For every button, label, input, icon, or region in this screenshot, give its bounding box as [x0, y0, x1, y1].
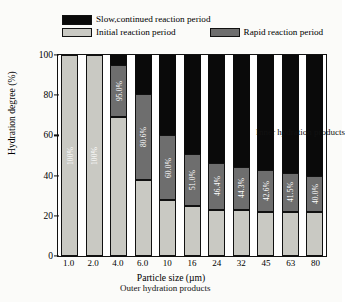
bar-segment-slow: [135, 55, 152, 94]
bar-segment-rapid: 51.0%: [184, 154, 201, 206]
bar-segment-initial: [208, 210, 225, 256]
bar-segment-initial: [184, 206, 201, 256]
bar-segment-initial: [233, 210, 250, 256]
bar-segment-initial: 100%: [86, 55, 103, 256]
bar-segment-initial: 100%: [61, 55, 78, 256]
x-tick-6.0: 6.0: [134, 258, 151, 271]
bar-value-label: 100%: [90, 146, 99, 164]
bar-segment-slow: [110, 55, 127, 65]
legend-row-second: Initial reaction period Rapid reaction p…: [62, 27, 330, 39]
plot-area: 020406080100 100%100%95.0%80.6%60.0%51.0…: [57, 54, 327, 257]
bar-value-label: 40.0%: [310, 184, 319, 204]
annotation-outer-hydration: Outer hydration products: [120, 283, 210, 293]
x-tick-63: 63: [282, 258, 299, 271]
bar-segment-rapid: 60.0%: [159, 135, 176, 199]
bar-segment-slow: [184, 55, 201, 153]
bar-4.0[interactable]: 95.0%: [110, 55, 127, 256]
x-tick-4.0: 4.0: [109, 258, 126, 271]
bar-segment-initial: [135, 180, 152, 256]
bar-segment-rapid: 44.3%: [233, 167, 250, 210]
y-tick-100: 100: [39, 50, 58, 60]
bar-segment-rapid: 42.6%: [257, 170, 274, 211]
bar-24[interactable]: 46.4%: [208, 55, 225, 256]
x-tick-45: 45: [258, 258, 275, 271]
bar-segment-rapid: 46.4%: [208, 163, 225, 210]
x-tick-32: 32: [233, 258, 250, 271]
bar-value-label: 46.4%: [212, 176, 221, 196]
x-tick-2.0: 2.0: [85, 258, 102, 271]
x-tick-80: 80: [307, 258, 324, 271]
legend-label-initial: Initial reaction period: [96, 27, 176, 38]
x-axis-ticks: 1.02.04.06.010162432456380: [57, 258, 327, 271]
bar-value-label: 60.0%: [163, 158, 172, 178]
legend-swatch-initial-icon: [62, 28, 92, 38]
x-tick-24: 24: [208, 258, 225, 271]
bar-6.0[interactable]: 80.6%: [135, 55, 152, 256]
bar-segment-initial: [257, 212, 274, 256]
bar-value-label: 41.5%: [286, 182, 295, 202]
bar-segment-initial: [159, 200, 176, 256]
bar-segment-slow: [233, 55, 250, 167]
x-axis-label: Particle size (µm): [0, 272, 342, 283]
bar-16[interactable]: 51.0%: [184, 55, 201, 256]
bar-segment-initial: [282, 212, 299, 256]
legend-label-slow: Slow,continued reaction period: [96, 14, 210, 25]
bar-value-label: 44.3%: [237, 178, 246, 198]
bar-1.0[interactable]: 100%: [61, 55, 78, 256]
x-tick-10: 10: [159, 258, 176, 271]
bar-group: 100%100%95.0%80.6%60.0%51.0%46.4%44.3%42…: [58, 55, 326, 256]
y-tick-20: 20: [44, 211, 59, 221]
bar-segment-rapid: 41.5%: [282, 173, 299, 212]
y-axis-label: Hydration degree (%): [6, 71, 17, 155]
bar-value-label: 42.6%: [261, 181, 270, 201]
y-tick-80: 80: [44, 90, 59, 100]
bar-segment-initial: [110, 117, 127, 256]
bar-63[interactable]: 41.5%: [282, 55, 299, 256]
legend-label-rapid: Rapid reaction period: [244, 27, 324, 38]
bar-segment-rapid: 80.6%: [135, 94, 152, 180]
bar-value-label: 80.6%: [139, 127, 148, 147]
chart-legend: Slow,continued reaction period Initial r…: [62, 14, 330, 38]
bar-segment-slow: [159, 55, 176, 135]
bar-segment-slow: [257, 55, 274, 170]
legend-swatch-rapid-icon: [210, 28, 240, 38]
y-tick-60: 60: [44, 130, 59, 140]
bar-2.0[interactable]: 100%: [86, 55, 103, 256]
bar-segment-slow: [208, 55, 225, 163]
bar-45[interactable]: 42.6%: [257, 55, 274, 256]
x-tick-1.0: 1.0: [60, 258, 77, 271]
bar-value-label: 100%: [65, 146, 74, 164]
bar-segment-slow: [282, 55, 299, 173]
bar-segment-rapid: 95.0%: [110, 65, 127, 117]
bar-80[interactable]: 40.0%: [306, 55, 323, 256]
bar-segment-initial: [306, 212, 323, 256]
legend-swatch-slow-icon: [62, 15, 92, 25]
legend-item-slow: Slow,continued reaction period: [62, 14, 330, 26]
bar-segment-rapid: 40.0%: [306, 176, 323, 212]
bar-32[interactable]: 44.3%: [233, 55, 250, 256]
bar-segment-slow: [306, 55, 323, 176]
annotation-inner-hydration: Inner hydration products: [256, 127, 345, 137]
bar-value-label: 95.0%: [114, 81, 123, 101]
bar-value-label: 51.0%: [188, 170, 197, 190]
y-tick-40: 40: [44, 171, 59, 181]
x-tick-16: 16: [183, 258, 200, 271]
bar-10[interactable]: 60.0%: [159, 55, 176, 256]
